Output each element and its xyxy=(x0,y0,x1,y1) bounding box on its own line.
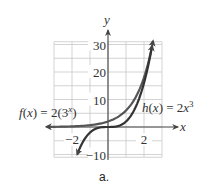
f-series-label: f(x) = 2(3x) xyxy=(19,104,77,120)
y-axis-label: y xyxy=(102,12,110,27)
y-tick-label: −10 xyxy=(86,148,106,163)
h-series-label: h(x) = 2x3 xyxy=(142,99,194,115)
figure-caption: a. xyxy=(99,170,109,184)
x-tick-label: −2 xyxy=(65,132,79,147)
y-tick-label: 10 xyxy=(93,93,106,108)
y-tick-label: 20 xyxy=(93,65,106,80)
x-tick-label: 2 xyxy=(141,132,148,147)
y-tick-label: 30 xyxy=(93,38,106,53)
x-axis-label: x xyxy=(179,119,186,134)
function-graph: xy 302010−10−22 f(x) = 2(3x)h(x) = 2x3 xyxy=(0,0,209,187)
